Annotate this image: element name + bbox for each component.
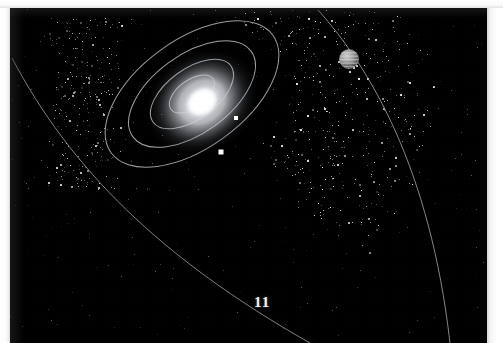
gas-giant [339,50,359,69]
illustration-plate: 11 [10,8,487,343]
page-margin-top [0,0,503,8]
solar-system-illustration [10,8,487,343]
central-star [121,23,282,180]
scanned-page: 11 [0,0,503,343]
outer-orbit-arc-right [318,10,450,343]
inner-planet-1 [234,116,238,120]
page-margin-left [0,0,10,343]
inner-planet-2 [219,150,224,155]
page-number: 11 [254,294,270,311]
page-margin-right [487,0,503,343]
